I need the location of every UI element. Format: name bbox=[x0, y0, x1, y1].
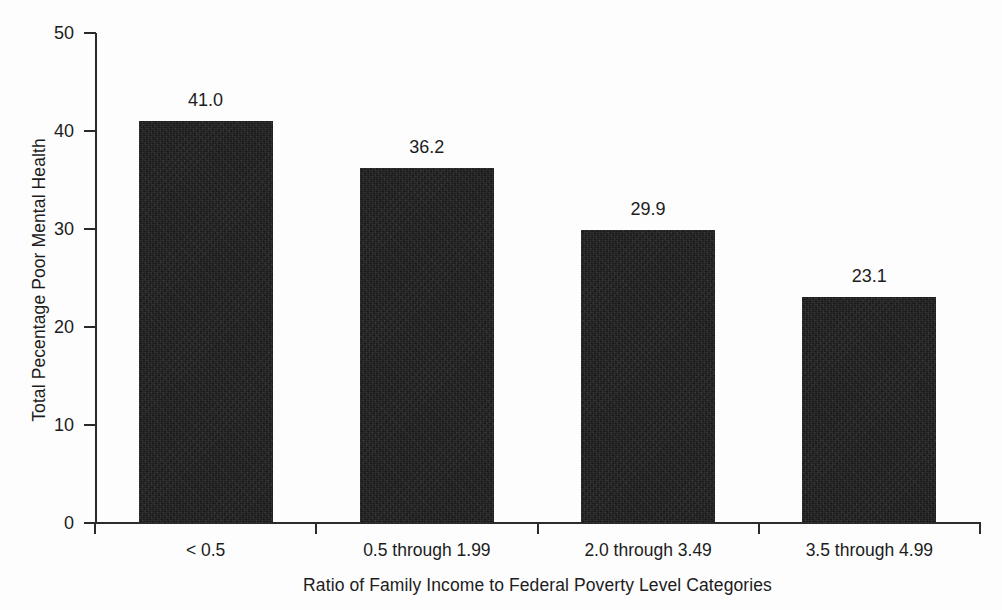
bar-value-label: 41.0 bbox=[109, 91, 303, 109]
x-tick-label: 2.0 through 3.49 bbox=[538, 541, 759, 560]
x-tick-mark bbox=[94, 523, 96, 534]
y-tick-label: 30 bbox=[0, 220, 74, 238]
bar-chart-figure: Total Pecentage Poor Mental Health 01020… bbox=[0, 0, 1002, 610]
x-tick-label: 3.5 through 4.99 bbox=[759, 541, 980, 560]
y-tick-label: 20 bbox=[0, 318, 74, 336]
bar-value-label: 23.1 bbox=[772, 267, 966, 285]
bar-value-label: 29.9 bbox=[551, 200, 745, 218]
y-tick-label: 50 bbox=[0, 24, 74, 42]
x-tick-mark bbox=[979, 523, 981, 534]
bar bbox=[139, 121, 273, 523]
y-tick-label: 0 bbox=[0, 514, 74, 532]
x-tick-label: < 0.5 bbox=[95, 541, 316, 560]
y-tick-label: 40 bbox=[0, 122, 74, 140]
x-axis-title: Ratio of Family Income to Federal Povert… bbox=[95, 575, 980, 596]
bar bbox=[802, 297, 936, 523]
x-tick-mark bbox=[537, 523, 539, 534]
bar-value-label: 36.2 bbox=[330, 138, 524, 156]
x-tick-mark bbox=[758, 523, 760, 534]
x-tick-label: 0.5 through 1.99 bbox=[316, 541, 537, 560]
bar bbox=[360, 168, 494, 523]
y-tick-label: 10 bbox=[0, 416, 74, 434]
y-axis-title: Total Pecentage Poor Mental Health bbox=[16, 15, 62, 545]
bar bbox=[581, 230, 715, 523]
x-tick-mark bbox=[315, 523, 317, 534]
